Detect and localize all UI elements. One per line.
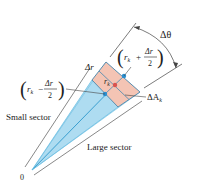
svg-text:Δr: Δr — [144, 47, 154, 56]
mid-radius-dot — [113, 83, 117, 87]
svg-text:Δr: Δr — [44, 79, 54, 88]
outer-radius-label: ( rk + Δr 2 ) — [117, 46, 164, 69]
small-sector-label: Small sector — [6, 112, 51, 122]
svg-text:rk: rk — [124, 52, 131, 63]
svg-text:rk: rk — [27, 84, 34, 95]
delta-area-label: ΔAk — [147, 92, 162, 103]
polar-area-element-diagram: Δθ ( rk + Δr 2 ) Δr rk ( rk − Δr 2 ) ΔAk… — [0, 0, 197, 192]
outer-radius-leader — [124, 67, 131, 76]
delta-r-label: Δr — [84, 62, 94, 72]
delta-theta-label: Δθ — [160, 29, 171, 40]
svg-text:+: + — [136, 52, 141, 62]
svg-text:−: − — [38, 84, 43, 94]
large-sector-label: Large sector — [87, 142, 132, 152]
svg-text:2: 2 — [48, 91, 52, 100]
inner-radius-label: ( rk − Δr 2 ) — [20, 78, 65, 101]
svg-text:): ) — [157, 46, 164, 69]
svg-text:2: 2 — [148, 59, 152, 68]
svg-text:): ) — [58, 78, 65, 101]
origin-label: 0 — [20, 173, 24, 182]
svg-text:(: ( — [20, 78, 27, 101]
svg-text:(: ( — [117, 46, 124, 69]
delta-theta-arrowhead-top — [134, 26, 140, 30]
